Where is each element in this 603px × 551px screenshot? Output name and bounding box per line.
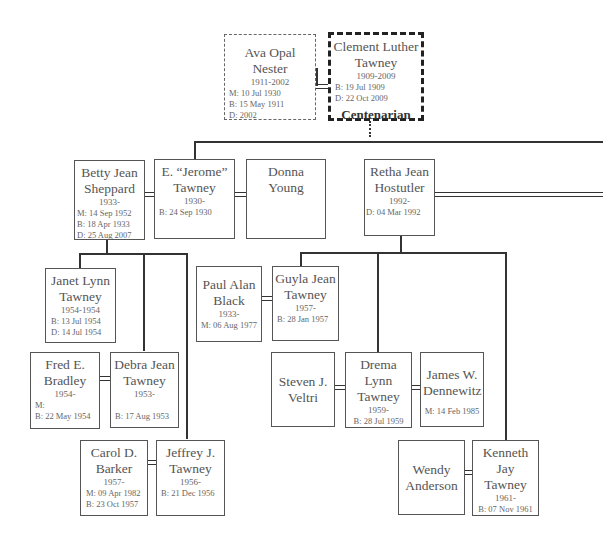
person-name: Jeffrey J. Tawney bbox=[157, 445, 224, 477]
marriage-date: M: 14 Sep 1952 bbox=[75, 208, 144, 219]
person-card-wendy-anderson[interactable]: Wendy Anderson bbox=[398, 440, 465, 515]
death-date: D: 2002 bbox=[225, 110, 315, 121]
person-name: James W. Dennewitz bbox=[421, 367, 483, 399]
sibling-line-gen2 bbox=[194, 141, 603, 143]
birth-date: B: 28 Jan 1957 bbox=[273, 314, 338, 325]
birth-date: B: 07 Nov 1961 bbox=[473, 504, 538, 515]
person-card-fred-e-bradley[interactable]: Fred E. Bradley 1954- M: B: 22 May 1954 bbox=[30, 352, 100, 429]
person-name: Debra Jean Tawney bbox=[111, 357, 178, 389]
connector bbox=[505, 252, 507, 440]
marriage-date: M: bbox=[31, 400, 99, 411]
marriage-line-root bbox=[316, 84, 328, 89]
connector bbox=[194, 141, 196, 159]
death-date: D: 25 Aug 2007 bbox=[75, 230, 144, 241]
connector bbox=[400, 236, 402, 253]
marriage-line-fred-debra bbox=[99, 376, 110, 381]
marriage-date: M: 09 Apr 1982 bbox=[81, 488, 147, 499]
person-card-e-jerome-tawney[interactable]: E. “Jerome” Tawney 1930- B: 24 Sep 1930 bbox=[154, 159, 235, 239]
person-name: E. “Jerome” Tawney bbox=[155, 164, 234, 196]
person-years: 1957- bbox=[81, 477, 147, 488]
connector bbox=[377, 252, 379, 352]
centenarian-badge: Centenarian bbox=[331, 107, 421, 123]
person-name: Ava Opal Nester bbox=[225, 45, 315, 77]
birth-date: B: 22 May 1954 bbox=[31, 411, 99, 422]
birth-date: B: 15 May 1911 bbox=[225, 99, 315, 110]
birth-date: B: 21 Dec 1956 bbox=[157, 488, 224, 499]
marriage-line-carol-jeffrey bbox=[147, 460, 156, 465]
person-name: Guyla Jean Tawney bbox=[273, 271, 338, 303]
person-years: 1911-2002 bbox=[225, 77, 315, 88]
marriage-line-jerome-donna bbox=[234, 192, 246, 197]
birth-date: B: 17 Aug 1953 bbox=[111, 411, 178, 422]
sibling-line-betty bbox=[79, 253, 187, 255]
person-name: Kenneth Jay Tawney bbox=[473, 445, 538, 493]
person-card-clement-luther-tawney[interactable]: Clement Luther Tawney 1909-2009 B: 19 Ju… bbox=[328, 32, 424, 121]
death-date: D: 22 Oct 2009 bbox=[331, 93, 421, 104]
descent-line-root bbox=[369, 121, 371, 137]
person-years: 1959- bbox=[346, 405, 411, 416]
person-years: 1930- bbox=[155, 196, 234, 207]
connector bbox=[316, 68, 318, 86]
marriage-date: M: 06 Aug 1977 bbox=[197, 320, 261, 331]
person-card-james-w-dennewitz[interactable]: James W. Dennewitz M: 14 Feb 1985 bbox=[420, 352, 484, 427]
person-years: 1957- bbox=[273, 303, 338, 314]
death-date: D: 04 Mar 1992 bbox=[365, 207, 434, 218]
connector bbox=[79, 253, 81, 268]
person-name: Retha Jean Hostutler bbox=[365, 164, 434, 196]
marriage-line-retha bbox=[434, 192, 603, 197]
person-card-paul-alan-black[interactable]: Paul Alan Black 1933- M: 06 Aug 1977 bbox=[196, 266, 262, 342]
person-years: 1933- bbox=[75, 197, 144, 208]
person-name: Wendy Anderson bbox=[399, 462, 464, 494]
birth-date: B: 24 Sep 1930 bbox=[155, 207, 234, 218]
death-date: D: 14 Jul 1954 bbox=[46, 327, 115, 338]
marriage-line-betty-jerome bbox=[144, 192, 154, 197]
person-name: Betty Jean Sheppard bbox=[75, 165, 144, 197]
birth-date: B: 28 Jul 1959 bbox=[346, 416, 411, 427]
marriage-date: M: 14 Feb 1985 bbox=[421, 406, 483, 417]
marriage-line-steven-drema bbox=[334, 385, 345, 390]
person-years: 1909-2009 bbox=[331, 71, 421, 82]
person-card-steven-j-veltri[interactable]: Steven J. Veltri bbox=[271, 352, 335, 427]
person-card-jeffrey-j-tawney[interactable]: Jeffrey J. Tawney 1956- B: 21 Dec 1956 bbox=[156, 440, 225, 516]
person-name: Clement Luther Tawney bbox=[331, 39, 421, 71]
person-card-janet-lynn-tawney[interactable]: Janet Lynn Tawney 1954-1954 B: 13 Jul 19… bbox=[45, 268, 116, 343]
birth-date: B: 23 Oct 1957 bbox=[81, 499, 147, 510]
person-name: Carol D. Barker bbox=[81, 445, 147, 477]
person-name: Donna Young bbox=[247, 164, 325, 196]
connector bbox=[106, 240, 108, 254]
birth-date: B: 19 Jul 1909 bbox=[331, 82, 421, 93]
person-card-guyla-jean-tawney[interactable]: Guyla Jean Tawney 1957- B: 28 Jan 1957 bbox=[272, 266, 339, 341]
person-card-kenneth-jay-tawney[interactable]: Kenneth Jay Tawney 1961- B: 07 Nov 1961 bbox=[472, 440, 539, 516]
person-years: 1933- bbox=[197, 309, 261, 320]
marriage-line-paul-guyla bbox=[262, 296, 272, 301]
person-card-ava-opal-nester[interactable]: Ava Opal Nester 1911-2002 M: 10 Jul 1930… bbox=[224, 34, 316, 120]
person-name: Drema Lynn Tawney bbox=[346, 357, 411, 405]
person-card-betty-jean-sheppard[interactable]: Betty Jean Sheppard 1933- M: 14 Sep 1952… bbox=[74, 160, 145, 240]
person-card-donna-young[interactable]: Donna Young bbox=[246, 159, 326, 239]
person-years: 1992- bbox=[365, 196, 434, 207]
birth-date: B: 18 Apr 1933 bbox=[75, 219, 144, 230]
person-name: Paul Alan Black bbox=[197, 277, 261, 309]
person-card-drema-lynn-tawney[interactable]: Drema Lynn Tawney 1959- B: 28 Jul 1959 bbox=[345, 352, 412, 428]
person-card-debra-jean-tawney[interactable]: Debra Jean Tawney 1953- B: 17 Aug 1953 bbox=[110, 352, 179, 428]
person-years: 1961- bbox=[473, 493, 538, 504]
person-card-carol-d-barker[interactable]: Carol D. Barker 1957- M: 09 Apr 1982 B: … bbox=[80, 440, 148, 516]
person-name: Janet Lynn Tawney bbox=[46, 273, 115, 305]
person-name: Fred E. Bradley bbox=[31, 357, 99, 389]
person-years: 1956- bbox=[157, 477, 224, 488]
sibling-line-retha bbox=[300, 252, 506, 254]
person-years: 1953- bbox=[111, 389, 178, 400]
person-name: Steven J. Veltri bbox=[272, 374, 334, 406]
connector bbox=[143, 253, 145, 351]
connector bbox=[186, 253, 188, 439]
person-years: 1954- bbox=[31, 389, 99, 400]
birth-date: B: 13 Jul 1954 bbox=[46, 316, 115, 327]
person-card-retha-jean-hostutler[interactable]: Retha Jean Hostutler 1992- D: 04 Mar 199… bbox=[364, 159, 435, 236]
person-years: 1954-1954 bbox=[46, 305, 115, 316]
marriage-date: M: 10 Jul 1930 bbox=[225, 88, 315, 99]
